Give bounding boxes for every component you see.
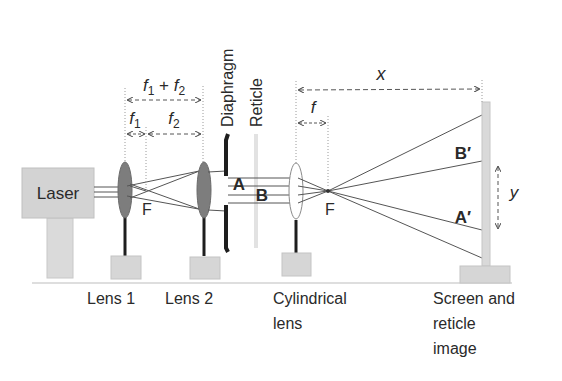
diaphragm-lower-blade [226,205,228,252]
diaphragm [226,134,228,252]
reticle-label: Reticle [248,78,265,127]
lens-1-caption: Lens 1 [87,290,135,307]
imaging-beams [298,115,482,258]
diaphragm-label: Diaphragm [219,49,236,127]
beam-label-b: B [256,186,268,205]
expanding-beams [127,170,204,210]
lens-2-caption: Lens 2 [165,290,213,307]
lens-2-base [190,257,220,279]
screen-panel [482,102,490,266]
x-dimension-arrow [299,89,479,90]
cylindrical-lens-caption-line1: Cylindrical [273,290,347,307]
laser-label: Laser [37,184,80,203]
image-label-a-prime: A′ [455,208,471,227]
f1-plus-f2-label: f1 + f2 [143,76,186,98]
screen-caption-line2: reticle [433,315,476,332]
cylindrical-lens-base [282,253,311,276]
focal-label-lens1: F [142,201,152,218]
image-label-b-prime: B′ [455,144,471,163]
lens-1 [111,162,141,279]
cylindrical-lens [282,163,311,276]
x-label: x [376,64,387,84]
diaphragm-upper-blade [226,134,228,176]
screen [460,102,510,283]
optical-setup-diagram: Laser [0,0,562,381]
screen-base [460,266,510,283]
screen-caption-line1: Screen and [433,290,515,307]
cylindrical-lens-element [289,163,303,219]
lens-1-base [111,256,141,279]
f1-label: f1 [129,109,141,131]
f2-label: f2 [168,109,180,131]
y-dimension-label: y [509,183,520,202]
beam-label-a: A [233,175,245,194]
focal-label-cyl: F [325,201,335,218]
cylindrical-lens-caption-line2: lens [273,315,302,332]
laser: Laser [22,168,94,278]
laser-stand [47,218,73,278]
focal-point-dot [326,189,330,193]
f-label: f [311,98,318,117]
lens-2 [190,162,220,279]
screen-caption-line3: image [433,340,477,357]
lens-1-element [118,162,132,218]
